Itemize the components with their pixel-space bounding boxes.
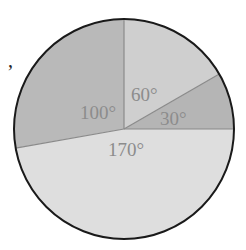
slice-label-170: 170° [108,139,144,160]
slice-label-100: 100° [80,102,116,123]
slice-label-60: 60° [131,84,158,105]
slice-label-30: 30° [160,108,187,129]
pie-chart: 30° 60° 100° 170° [0,0,246,250]
pie-slice-100 [14,19,124,148]
